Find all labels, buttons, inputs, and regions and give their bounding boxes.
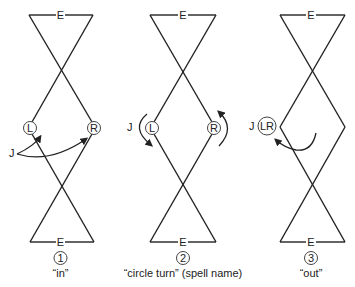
j-label: J (249, 120, 255, 132)
top-end-label: E (179, 9, 186, 21)
step-caption: “in” (53, 267, 69, 279)
bottom-end-label: E (307, 236, 314, 248)
step-number: 3 (308, 252, 314, 264)
step-number: 2 (180, 252, 186, 264)
step-caption: “circle turn” (spell name) (124, 267, 243, 279)
dancer-l-label: L (149, 122, 155, 134)
dancer-lr-label: LR (260, 120, 274, 132)
top-end-label: E (307, 9, 314, 21)
step-number: 1 (57, 252, 63, 264)
bottom-end-label: E (179, 236, 186, 248)
j-label: J (9, 147, 15, 159)
dancer-r-label: R (210, 122, 218, 134)
dancer-l-label: L (27, 122, 33, 134)
panel-1: E E L R J 1 “in” (9, 9, 101, 279)
top-end-label: E (57, 9, 64, 21)
dance-figure-diagram: E E L R J 1 “in” E E L R J (0, 0, 355, 287)
dancer-r-label: R (90, 122, 98, 134)
out-arrow-icon (276, 133, 316, 150)
j-label: J (127, 121, 133, 133)
bottom-end-label: E (57, 236, 64, 248)
panel-3: E E LR J 3 “out” (249, 9, 345, 279)
step-caption: “out” (300, 267, 323, 279)
arrow-to-l-icon (17, 137, 40, 154)
panel-2: E E L R J 2 “circle turn” (spell name) (124, 9, 243, 279)
